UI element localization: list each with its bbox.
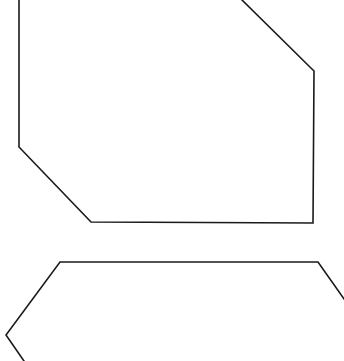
diagram-canvas: [0, 0, 344, 361]
